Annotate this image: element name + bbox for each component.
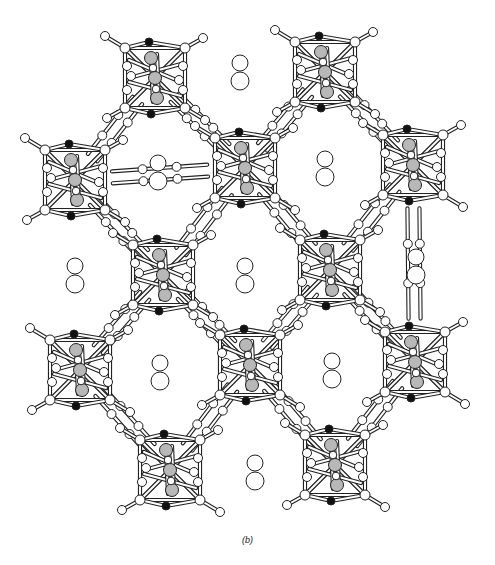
metal-atom — [403, 139, 416, 152]
bridge-atom — [134, 421, 143, 430]
dark-atom — [403, 125, 411, 133]
metal-atom-center — [239, 162, 252, 175]
metal-atom-center — [329, 459, 342, 472]
metal-atom — [331, 479, 344, 492]
cage-atom — [359, 449, 368, 458]
terminal-atom — [379, 421, 388, 430]
cage-atom — [215, 390, 225, 400]
cage-atom — [298, 278, 307, 287]
figure-caption: (b) — [0, 535, 495, 545]
cage-atom — [407, 151, 415, 159]
bridge-atom — [193, 420, 202, 429]
cage-atom — [440, 387, 450, 397]
cage-atom — [329, 451, 337, 459]
dark-atom — [320, 230, 328, 238]
dark-atom — [65, 140, 73, 148]
cage-atom — [74, 356, 82, 364]
cage-atom — [160, 282, 168, 290]
cluster-A — [101, 32, 210, 125]
terminal-atom — [199, 34, 208, 43]
dark-atom — [145, 38, 153, 46]
bridge-atom — [296, 221, 305, 230]
terminal-atom — [121, 218, 130, 227]
cage-atom — [322, 79, 330, 87]
cage-atom — [269, 152, 278, 161]
terminal-atom — [283, 501, 292, 510]
metal-atom-center — [74, 364, 87, 377]
bridge-atom — [273, 319, 282, 328]
cage-atom — [440, 327, 450, 337]
cage-atom — [349, 80, 358, 89]
cage-atom — [387, 356, 396, 365]
terminal-atom — [207, 231, 216, 240]
terminal-atom — [109, 229, 118, 238]
cage-atom — [128, 300, 138, 310]
cage-atom — [40, 145, 50, 155]
cage-atom — [48, 378, 57, 387]
terminal-atom — [111, 311, 120, 320]
cage-atom — [222, 359, 231, 368]
terminal-atom — [119, 136, 128, 145]
cage-atom — [104, 354, 113, 363]
cage-atom — [213, 152, 222, 161]
metal-atom — [315, 46, 328, 59]
cage-atom — [131, 283, 140, 292]
cage-atom — [332, 472, 340, 480]
terminal-atom — [191, 122, 200, 131]
cage-atom — [327, 277, 335, 285]
dark-atom — [160, 430, 168, 438]
cage-atom — [135, 269, 144, 278]
guest-pair — [246, 455, 264, 490]
cage-atom — [180, 103, 190, 113]
cage-atom — [167, 477, 175, 485]
metal-atom-center — [164, 464, 177, 477]
guest-pair — [151, 355, 169, 390]
cage-atom — [179, 62, 188, 71]
cage-atom — [242, 175, 250, 183]
terminal-atom — [294, 321, 303, 330]
dark-atom — [325, 425, 333, 433]
cage-atom — [380, 327, 390, 337]
cage-atom — [47, 174, 56, 183]
cage-atom — [410, 172, 418, 180]
cage-atom — [190, 468, 199, 477]
terminal-atom — [196, 319, 205, 328]
terminal-atom — [124, 326, 133, 335]
cage-atom — [300, 430, 310, 440]
metal-atom — [240, 339, 253, 352]
dark-atom — [317, 104, 325, 112]
terminal-atom — [363, 398, 372, 407]
metal-atom — [241, 182, 254, 195]
cage-atom — [350, 97, 360, 107]
cage-atom — [300, 490, 310, 500]
cage-atom — [247, 372, 255, 380]
bridge-atom — [358, 416, 367, 425]
dark-atom — [162, 502, 170, 510]
cage-atom — [142, 464, 151, 473]
cage-atom — [290, 37, 300, 47]
dark-atom — [235, 128, 243, 136]
cage-atom — [135, 435, 145, 445]
bridge-atom — [270, 208, 279, 217]
terminal-atom — [23, 216, 32, 225]
terminal-atom — [376, 308, 385, 317]
cage-atom — [435, 360, 444, 369]
terminal-atom — [216, 508, 225, 517]
cage-atom — [105, 335, 115, 345]
cage-atom — [354, 278, 363, 287]
cluster-G — [276, 224, 385, 317]
terminal-atom — [209, 313, 218, 322]
bridge-atom — [354, 220, 363, 229]
cage-atom — [345, 70, 354, 79]
cluster-J — [361, 316, 470, 409]
terminal-atom — [214, 426, 223, 435]
metal-atom — [70, 344, 83, 357]
cage-atom — [194, 454, 203, 463]
bridge-atom — [139, 177, 148, 186]
cluster-K — [116, 424, 225, 517]
terminal-atom — [459, 203, 468, 212]
dark-atom — [72, 402, 80, 410]
bridge-atom — [268, 121, 277, 130]
cage-atom — [164, 456, 172, 464]
cage-atom — [52, 364, 61, 373]
